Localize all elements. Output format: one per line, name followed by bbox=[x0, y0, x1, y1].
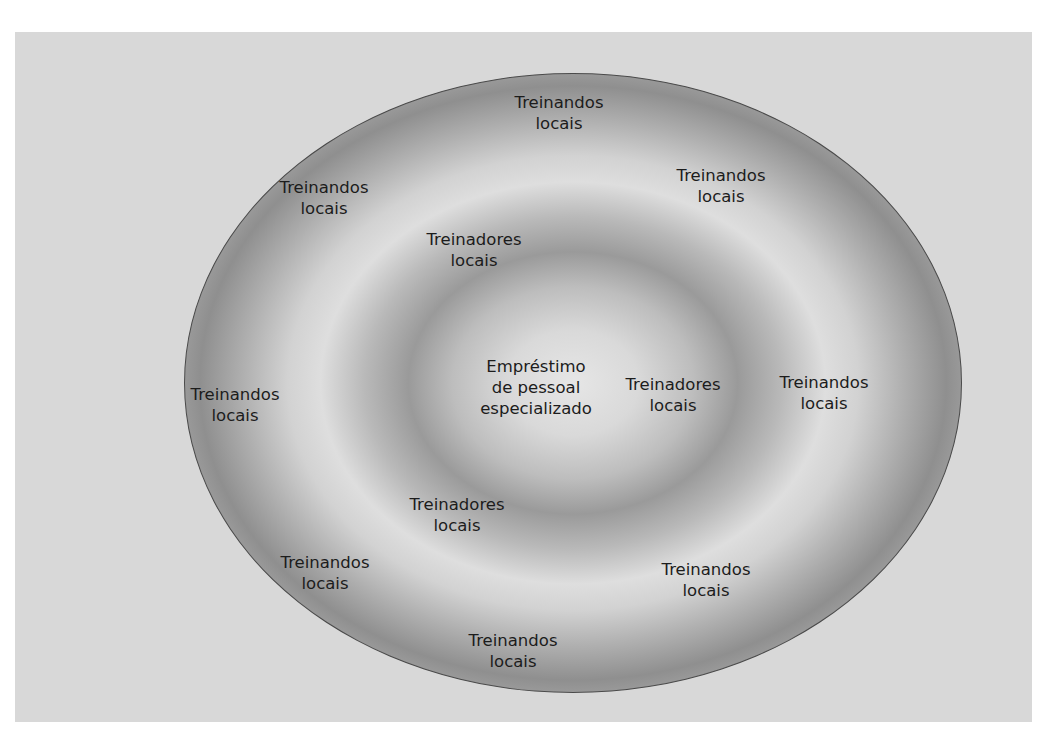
label-line: Treinadores bbox=[625, 374, 720, 395]
outer-ring-label-local-trainees: Treinandos locais bbox=[676, 165, 765, 207]
center-label-line: Empréstimo bbox=[480, 356, 592, 377]
center-label-line: especializado bbox=[480, 398, 592, 419]
outer-ring-label-local-trainees: Treinandos locais bbox=[514, 92, 603, 134]
outer-ring-label-local-trainees: Treinandos locais bbox=[279, 177, 368, 219]
inner-ring-label-local-trainers: Treinadores locais bbox=[625, 374, 720, 416]
label-line: locais bbox=[625, 395, 720, 416]
label-line: Treinandos bbox=[514, 92, 603, 113]
outer-ring-label-local-trainees: Treinandos locais bbox=[661, 559, 750, 601]
label-line: locais bbox=[514, 113, 603, 134]
outer-ring-label-local-trainees: Treinandos locais bbox=[468, 630, 557, 672]
label-line: Treinandos bbox=[190, 384, 279, 405]
label-line: locais bbox=[409, 515, 504, 536]
label-line: locais bbox=[190, 405, 279, 426]
inner-ring-label-local-trainers: Treinadores locais bbox=[426, 229, 521, 271]
label-line: locais bbox=[661, 580, 750, 601]
label-line: Treinandos bbox=[676, 165, 765, 186]
label-line: Treinandos bbox=[661, 559, 750, 580]
label-line: locais bbox=[468, 651, 557, 672]
label-line: Treinandos bbox=[468, 630, 557, 651]
center-label-specialized-staff-loan: Empréstimo de pessoal especializado bbox=[480, 356, 592, 419]
label-line: locais bbox=[279, 198, 368, 219]
label-line: Treinadores bbox=[409, 494, 504, 515]
label-line: locais bbox=[426, 250, 521, 271]
outer-ring-label-local-trainees: Treinandos locais bbox=[280, 552, 369, 594]
label-line: Treinandos bbox=[779, 372, 868, 393]
label-line: Treinandos bbox=[280, 552, 369, 573]
center-label-line: de pessoal bbox=[480, 377, 592, 398]
label-line: Treinadores bbox=[426, 229, 521, 250]
outer-ring-label-local-trainees: Treinandos locais bbox=[190, 384, 279, 426]
inner-ring-label-local-trainers: Treinadores locais bbox=[409, 494, 504, 536]
label-line: Treinandos bbox=[279, 177, 368, 198]
outer-ring-label-local-trainees: Treinandos locais bbox=[779, 372, 868, 414]
label-line: locais bbox=[676, 186, 765, 207]
label-line: locais bbox=[280, 573, 369, 594]
label-line: locais bbox=[779, 393, 868, 414]
